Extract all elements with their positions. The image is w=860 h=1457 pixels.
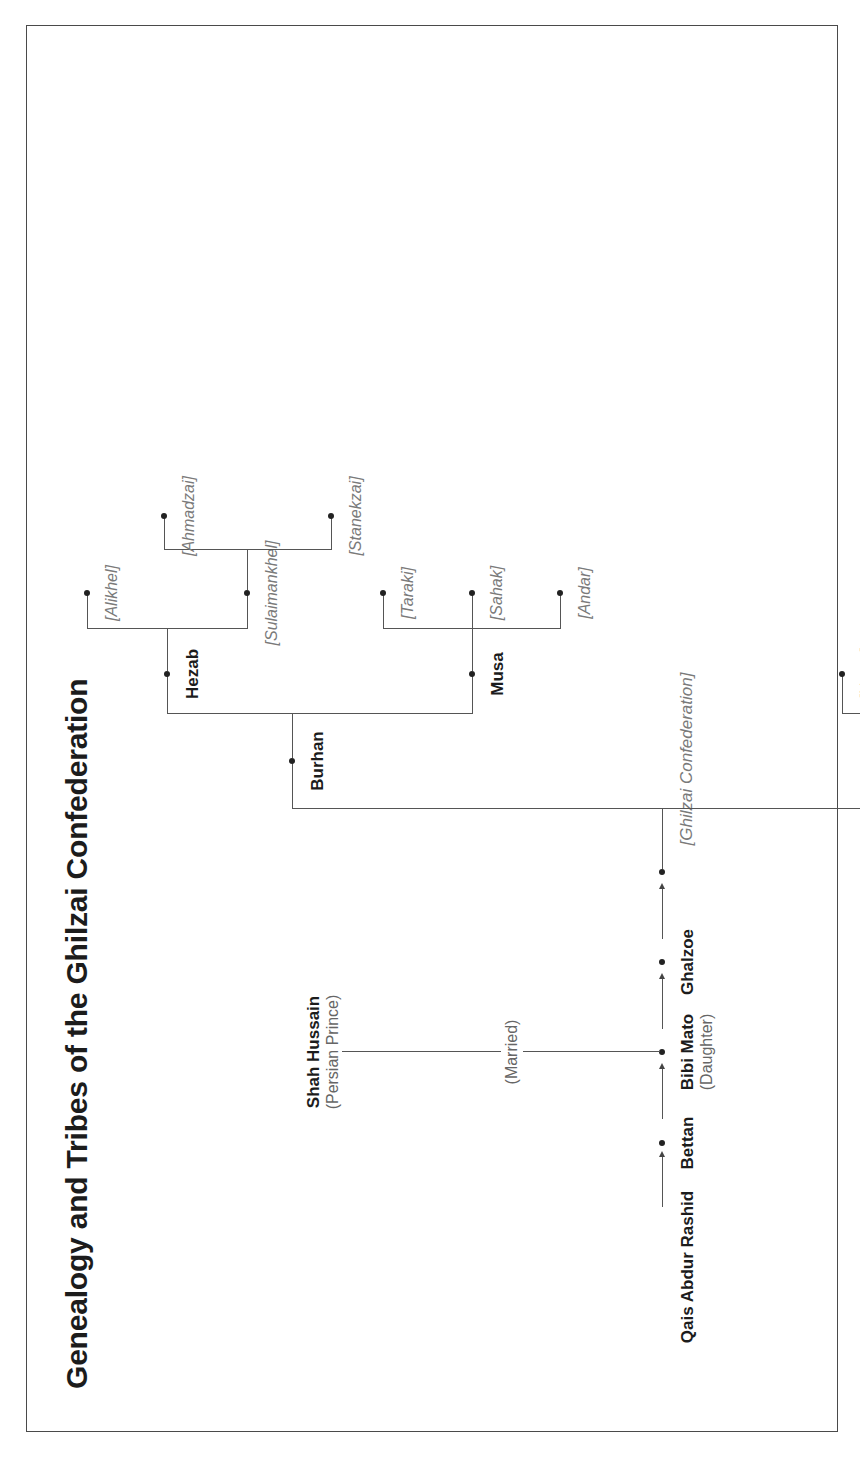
node-burhan: Burhan (308, 731, 328, 791)
node-ghilzai-confederation: [Ghilzai Confederation] (678, 672, 697, 845)
node-label: Shah Hussain (304, 994, 324, 1109)
node-dot-confederation (659, 869, 665, 875)
node-dot-burhan (289, 758, 295, 764)
diagram-frame: Genealogy and Tribes of the Ghilzai Conf… (26, 25, 838, 1432)
arrow-head-icon (659, 883, 665, 889)
node-musa: Musa (488, 652, 508, 695)
node-ghalzoe: Ghalzoe (678, 928, 698, 994)
connector-bettan-to-bibi-mato (662, 1067, 663, 1119)
node-sublabel: (Persian Prince) (324, 994, 342, 1109)
arrow-head-icon (659, 1063, 665, 1069)
node-bettan: Bettan (678, 1116, 698, 1169)
connector-confederation-stub (662, 809, 663, 869)
node-tribe-sahak: [Sahak] (488, 565, 506, 619)
connector-burhan-to-musa (472, 674, 473, 714)
node-bibi-mato: Bibi Mato (Daughter) (678, 1013, 716, 1090)
connector-burhan-stub (292, 714, 293, 758)
node-dot-hezab (164, 671, 170, 677)
connector-musa-stub (472, 629, 473, 671)
connector-sulaimankhel-to-ahmadzai (164, 516, 165, 550)
page-canvas: Genealogy and Tribes of the Ghilzai Conf… (0, 0, 860, 1457)
marriage-label: (Married) (501, 1016, 523, 1087)
node-tribe-ahmadzai: [Ahmadzai] (180, 475, 198, 555)
connector-qais-to-bettan (662, 1155, 663, 1207)
node-dot-sulaimankhel (244, 590, 250, 596)
arrow-head-icon (659, 1151, 665, 1157)
node-dot-musa (469, 671, 475, 677)
node-label: Hezab (183, 648, 203, 698)
page-title: Genealogy and Tribes of the Ghilzai Conf… (60, 678, 94, 1388)
connector-sulaimankhel-to-stanekzai (331, 516, 332, 550)
node-dot-bettan (659, 1140, 665, 1146)
node-dot-alikhel (84, 590, 90, 596)
node-tribe-stanekzai: [Stanekzai] (347, 476, 365, 555)
node-tribe-taraki: [Taraki] (399, 567, 417, 619)
node-label: Bettan (678, 1116, 698, 1169)
node-label: Burhan (308, 731, 328, 791)
node-dot-stanekzai (328, 513, 334, 519)
node-dot-andar (557, 590, 563, 596)
connector-hezab-to-sulaimankhel (247, 593, 248, 629)
node-label: Ghalzoe (678, 928, 698, 994)
arrow-head-icon (659, 973, 665, 979)
node-label: Qais Abdur Rashid (678, 1190, 698, 1342)
connector-musa-to-andar (560, 593, 561, 629)
node-tribe-alikhel: [Alikhel] (103, 564, 121, 620)
node-dot-ahmadzai (161, 513, 167, 519)
node-tribe-andar: [Andar] (576, 567, 594, 619)
node-hezab: Hezab (183, 648, 203, 698)
connector-to-burhan (292, 761, 293, 809)
node-dot-sahak (469, 590, 475, 596)
connector-turan-to-nasar (842, 674, 843, 714)
node-sublabel: (Daughter) (698, 1013, 716, 1090)
connector-musa-to-sahak (472, 593, 473, 629)
connector-turan-spine (842, 713, 860, 714)
rotated-diagram-canvas: Genealogy and Tribes of the Ghilzai Conf… (42, 39, 822, 1419)
node-label: Musa (488, 652, 508, 695)
connector-burhan-to-hezab (167, 674, 168, 714)
node-dot-taraki (380, 590, 386, 596)
node-dot-ghalzoe (659, 959, 665, 965)
node-dot-nasar (839, 671, 845, 677)
node-label: Bibi Mato (678, 1013, 698, 1090)
connector-bibi-mato-to-ghalzoe (662, 977, 663, 1029)
connector-burhan-spine (167, 713, 472, 714)
connector-ghalzoe-to-confederation (662, 887, 663, 939)
connector-hezab-stub (167, 629, 168, 671)
connector-sulaimankhel-stub (247, 550, 248, 590)
node-shah-hussain: Shah Hussain (Persian Prince) (304, 994, 342, 1109)
connector-musa-to-taraki (383, 593, 384, 629)
node-qais-abdur-rashid: Qais Abdur Rashid (678, 1190, 698, 1342)
connector-hezab-to-alikhel (87, 593, 88, 629)
connector-confederation-spine (292, 808, 860, 809)
node-tribe-sulaimankhel: [Sulaimankhel] (263, 540, 281, 645)
connector-hezab-spine (87, 628, 247, 629)
